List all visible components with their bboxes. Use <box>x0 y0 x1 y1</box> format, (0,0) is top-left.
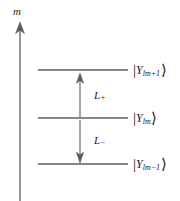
ket-label-top: |Ylm+1⟩ <box>133 63 167 78</box>
ket-symbol-top: Y <box>136 63 143 77</box>
ket-subscript-op-top: +1 <box>151 69 160 78</box>
lowering-operator-sign: − <box>100 138 105 147</box>
m-axis-label: m <box>13 6 21 17</box>
raising-operator-sign: + <box>100 93 105 102</box>
energy-level-diagram: m L+ L− |Ylm+1⟩ |Ylm⟩ |Ylm−1⟩ <box>0 0 180 201</box>
lowering-operator-label: L− <box>94 135 105 147</box>
m-axis-group <box>16 22 25 201</box>
lowering-operator-arrow <box>76 120 83 163</box>
ket-symbol-bottom: Y <box>136 157 143 171</box>
ket-label-bottom: |Ylm−1⟩ <box>133 157 167 172</box>
ket-angle-bottom: ⟩ <box>160 156 167 172</box>
energy-levels-group <box>38 70 128 164</box>
ket-subscript-top: lm <box>143 69 151 78</box>
ket-label-middle: |Ylm⟩ <box>133 111 157 126</box>
ket-subscript-middle: lm <box>143 117 151 126</box>
ket-angle-middle: ⟩ <box>151 110 158 126</box>
ket-subscript-op-bottom: −1 <box>151 163 160 172</box>
ket-angle-top: ⟩ <box>160 62 167 78</box>
raising-operator-arrow <box>76 73 83 117</box>
ket-symbol-middle: Y <box>136 111 143 125</box>
ket-subscript-bottom: lm <box>143 163 151 172</box>
raising-operator-label: L+ <box>94 90 105 102</box>
